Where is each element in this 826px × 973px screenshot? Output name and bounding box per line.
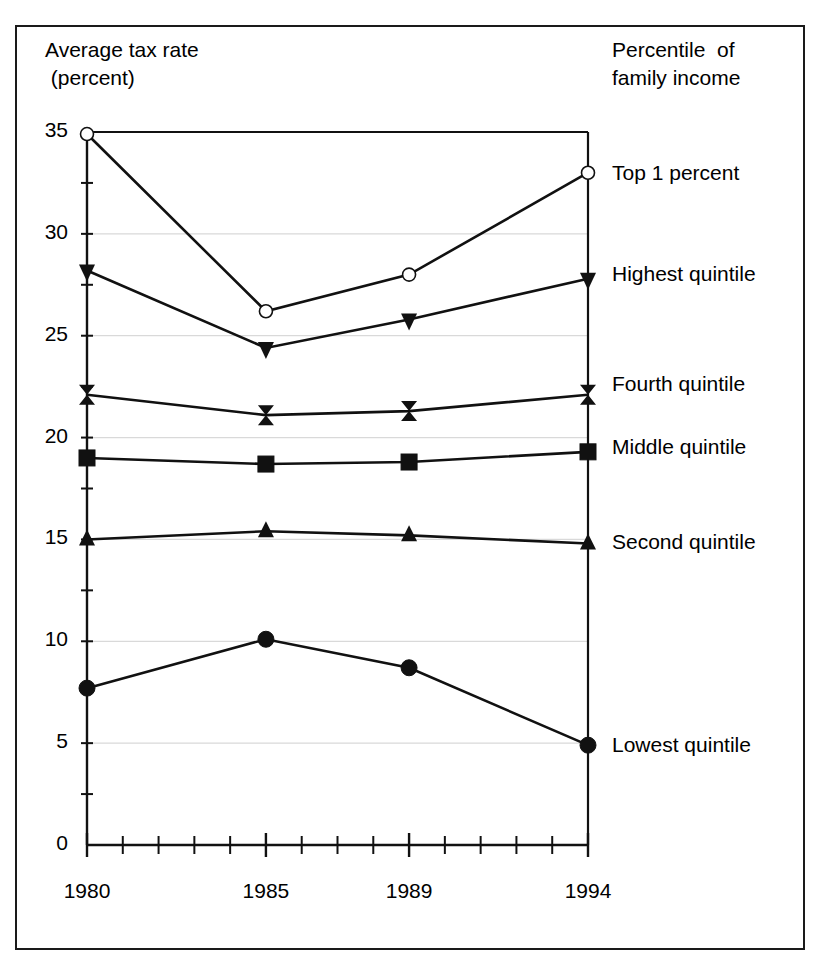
x-tick-label: 1985: [221, 879, 311, 903]
series-label-5: Lowest quintile: [612, 733, 751, 757]
series-label-1: Highest quintile: [612, 262, 756, 286]
y-tick-label: 15: [24, 525, 68, 549]
x-tick-label: 1994: [543, 879, 633, 903]
y-axis-title: Average tax rate (percent): [45, 36, 199, 92]
y-tick-label: 20: [24, 424, 68, 448]
y-tick-label: 5: [24, 729, 68, 753]
chart-figure: Average tax rate (percent) Percentile of…: [0, 0, 826, 973]
x-tick-label: 1989: [364, 879, 454, 903]
y-tick-label: 35: [24, 118, 68, 142]
y-tick-label: 25: [24, 322, 68, 346]
series-label-2: Fourth quintile: [612, 372, 745, 396]
series-label-0: Top 1 percent: [612, 161, 739, 185]
legend-title: Percentile of family income: [612, 36, 740, 92]
series-label-4: Second quintile: [612, 530, 756, 554]
x-tick-label: 1980: [42, 879, 132, 903]
y-tick-label: 0: [24, 831, 68, 855]
series-label-3: Middle quintile: [612, 435, 746, 459]
y-tick-label: 30: [24, 220, 68, 244]
y-tick-label: 10: [24, 627, 68, 651]
